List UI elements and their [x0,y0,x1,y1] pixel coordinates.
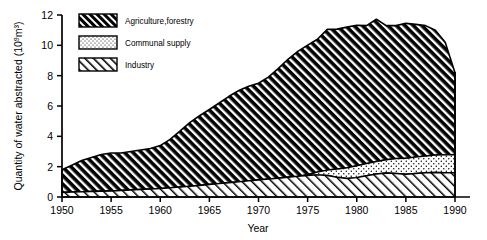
chart-legend: Agriculture,forestry Communal supply Ind… [79,14,195,71]
y-axis-title: Quantity of water abstracted (109m³) [12,21,24,190]
y-tick-label: 6 [47,100,53,112]
legend-item-industry: Industry [79,58,155,71]
y-tick-label: 2 [47,161,53,173]
x-tick-group: 195019551960196519701975198019851990 [50,197,467,216]
y-tick-label: 8 [47,70,53,82]
stacked-area-bands [62,19,455,197]
water-abstraction-area-chart: 024681012 195019551960196519701975198019… [0,0,487,240]
legend-label-communal-supply: Communal supply [125,39,191,48]
legend-swatch-agriculture-forestry [79,14,117,27]
legend-item-agriculture-forestry: Agriculture,forestry [79,14,195,27]
chart-figure: 024681012 195019551960196519701975198019… [0,0,487,240]
x-tick-label: 1970 [247,204,271,216]
x-tick-label: 1990 [443,204,467,216]
x-tick-label: 1950 [50,204,74,216]
x-tick-label: 1955 [99,204,123,216]
legend-label-industry: Industry [125,61,155,70]
x-tick-label: 1965 [198,204,222,216]
y-axis-title-main: Quantity of water abstracted (10 [12,41,24,191]
legend-label-agriculture-forestry: Agriculture,forestry [125,17,195,26]
y-tick-label: 0 [47,191,53,203]
y-tick-group: 024681012 [41,9,62,203]
y-axis-title-tail: m³) [12,21,24,37]
legend-swatch-communal-supply [79,36,117,49]
legend-item-communal-supply: Communal supply [79,36,191,49]
y-tick-label: 4 [47,130,53,142]
x-tick-label: 1980 [345,204,369,216]
x-tick-label: 1975 [296,204,320,216]
x-axis-title: Year [247,222,269,234]
y-tick-label: 12 [41,9,53,21]
legend-swatch-industry [79,58,117,71]
y-tick-label: 10 [41,39,53,51]
x-tick-label: 1960 [149,204,173,216]
x-tick-label: 1985 [394,204,418,216]
